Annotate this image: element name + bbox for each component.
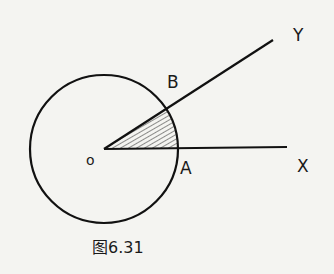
ray-oy [104, 40, 273, 149]
label-o: o [86, 153, 95, 167]
geometry-diagram [0, 0, 334, 274]
label-y: Y [293, 27, 303, 44]
figure-canvas: o A B X Y 图6.31 [0, 0, 334, 274]
label-x: X [297, 158, 309, 175]
label-a: A [180, 160, 192, 177]
figure-caption: 图6.31 [92, 240, 144, 256]
label-b: B [167, 74, 179, 91]
